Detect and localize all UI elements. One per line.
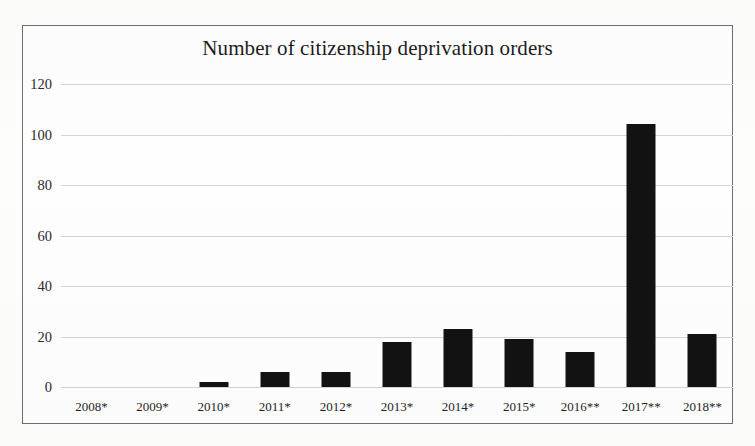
bars-group: 2008*2009*2010*2011*2012*2013*2014*2015*… [61,84,733,387]
plot-area: 020406080100120 2008*2009*2010*2011*2012… [61,84,733,387]
bar [260,372,289,387]
chart-title: Number of citizenship deprivation orders [23,36,732,61]
bar-slot: 2015* [489,84,550,387]
x-axis-tick-label: 2014* [442,399,475,415]
bar [505,339,534,387]
bar [444,329,473,387]
x-axis-tick-label: 2012* [320,399,353,415]
bar [321,372,350,387]
y-axis-tick-label: 80 [38,177,53,194]
x-axis-tick-label: 2018** [683,399,722,415]
bar-slot: 2014* [428,84,489,387]
bar-slot: 2008* [61,84,122,387]
x-axis-tick-label: 2016** [561,399,600,415]
gridline [61,387,733,388]
x-axis-tick-label: 2009* [136,399,169,415]
y-axis-tick-label: 100 [30,126,52,143]
x-axis-tick-label: 2013* [381,399,414,415]
y-axis-tick-label: 40 [38,278,53,295]
bar-slot: 2009* [122,84,183,387]
x-axis-tick-label: 2017** [622,399,661,415]
y-axis-tick-label: 20 [38,328,53,345]
bar-slot: 2017** [611,84,672,387]
chart-frame: Number of citizenship deprivation orders… [22,25,733,424]
bar [627,124,656,387]
x-axis-tick-label: 2015* [503,399,536,415]
bar-slot: 2012* [305,84,366,387]
bar [688,334,717,387]
bar-slot: 2018** [672,84,733,387]
bar-slot: 2013* [366,84,427,387]
x-axis-tick-label: 2011* [259,399,291,415]
bar [199,382,228,387]
bar [566,352,595,387]
x-axis-tick-label: 2008* [75,399,108,415]
bar [382,342,411,387]
chart-page: Number of citizenship deprivation orders… [0,0,755,446]
bar-slot: 2011* [244,84,305,387]
y-axis-tick-label: 120 [30,76,52,93]
bar-slot: 2010* [183,84,244,387]
bar-slot: 2016** [550,84,611,387]
y-axis-tick-label: 60 [38,227,53,244]
x-axis-tick-label: 2010* [197,399,230,415]
y-axis-tick-label: 0 [45,379,52,396]
